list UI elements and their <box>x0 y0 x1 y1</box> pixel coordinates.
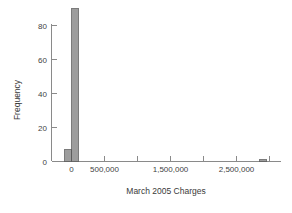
x-tick-label: 2,500,000 <box>219 165 255 174</box>
x-tick-label: 1,500,000 <box>153 165 189 174</box>
x-axis-label: March 2005 Charges <box>126 186 205 196</box>
y-tick-label: 40 <box>38 90 47 99</box>
y-tick-label: 20 <box>38 124 47 133</box>
histogram-figure: Frequency 0 20 40 60 80 0 <box>0 0 292 213</box>
y-tick-group <box>52 26 58 162</box>
histogram-bar <box>260 160 267 162</box>
y-axis-label: Frequency <box>12 79 22 120</box>
x-tick-label: 0 <box>69 165 74 174</box>
histogram-bar <box>65 150 72 162</box>
x-tick-label: 500,000 <box>90 165 119 174</box>
y-tick-label: 80 <box>38 22 47 31</box>
y-tick-label: 60 <box>38 56 47 65</box>
y-tick-label: 0 <box>43 158 48 167</box>
x-tick-group <box>72 156 270 162</box>
histogram-bar <box>72 9 79 162</box>
bar-series <box>65 9 266 162</box>
